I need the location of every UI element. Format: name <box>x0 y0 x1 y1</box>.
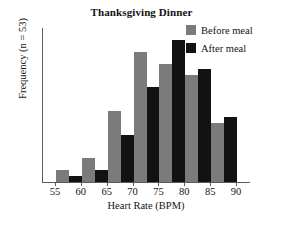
y-axis-label: Frequency (n = 53) <box>17 0 28 119</box>
bar-before-80 <box>185 75 198 182</box>
legend-label-after: After meal <box>201 43 246 54</box>
bar-after-70 <box>147 87 160 182</box>
bar-after-65 <box>121 135 134 182</box>
x-tick-label-80: 80 <box>179 186 190 197</box>
chart-title: Thanksgiving Dinner <box>0 6 283 18</box>
bar-before-65 <box>108 111 121 182</box>
legend-swatch-before <box>186 25 196 35</box>
legend-item-after: After meal <box>186 42 253 54</box>
legend-label-before: Before meal <box>201 25 253 36</box>
bar-after-60 <box>95 170 108 182</box>
bar-before-85 <box>211 123 224 182</box>
x-tick-label-75: 75 <box>153 186 164 197</box>
x-tick-label-55: 55 <box>50 186 61 197</box>
x-tick-label-60: 60 <box>76 186 87 197</box>
chart-legend: Before mealAfter meal <box>186 24 253 60</box>
bar-after-85 <box>224 117 237 182</box>
bar-before-60 <box>82 158 95 182</box>
legend-item-before: Before meal <box>186 24 253 36</box>
legend-swatch-after <box>186 43 196 53</box>
bar-before-75 <box>159 64 172 182</box>
chart-container: Thanksgiving Dinner Frequency (n = 53) 5… <box>0 0 283 234</box>
x-tick-label-65: 65 <box>101 186 112 197</box>
bar-after-75 <box>172 40 185 182</box>
x-axis-label: Heart Rate (BPM) <box>42 200 250 211</box>
x-tick-label-70: 70 <box>127 186 138 197</box>
x-tick-label-85: 85 <box>205 186 216 197</box>
x-tick-label-90: 90 <box>231 186 242 197</box>
bar-before-70 <box>134 52 147 182</box>
bar-before-55 <box>56 170 69 182</box>
bar-after-80 <box>198 69 211 182</box>
